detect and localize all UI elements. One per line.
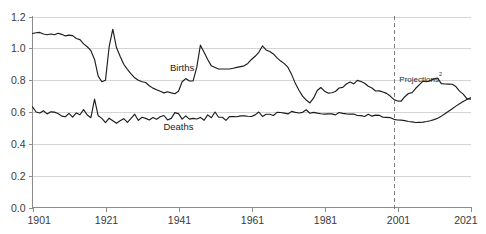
y-tick-label: 0.6: [11, 106, 26, 118]
series-line-births: [33, 29, 471, 103]
x-tick-label: 1901: [28, 214, 52, 226]
y-tick-label: 1.2: [11, 11, 26, 23]
x-tick-label: 2021: [454, 214, 478, 226]
x-tick-label: 1921: [95, 214, 119, 226]
deaths-label: Deaths: [163, 121, 193, 132]
chart-canvas: 0.00.20.40.60.81.01.2 190119211941196119…: [0, 0, 486, 234]
projections-label: Projections2: [399, 71, 442, 84]
x-tick-label: 1981: [314, 214, 338, 226]
x-tick-label: 2001: [387, 214, 411, 226]
y-axis: 0.00.20.40.60.81.01.2: [11, 11, 33, 214]
y-tick-label: 0.0: [11, 202, 26, 214]
y-tick-label: 0.2: [11, 170, 26, 182]
x-tick-label: 1941: [168, 214, 192, 226]
population-births-deaths-chart: 0.00.20.40.60.81.01.2 190119211941196119…: [0, 0, 486, 234]
y-tick-label: 0.8: [11, 74, 26, 86]
y-tick-label: 1.0: [11, 42, 26, 54]
x-tick-label: 1961: [241, 214, 265, 226]
series-line-deaths: [33, 98, 471, 124]
y-tick-label: 0.4: [11, 138, 26, 150]
births-label: Births: [170, 62, 195, 73]
x-axis: 1901192119411961198120012021: [28, 208, 478, 226]
